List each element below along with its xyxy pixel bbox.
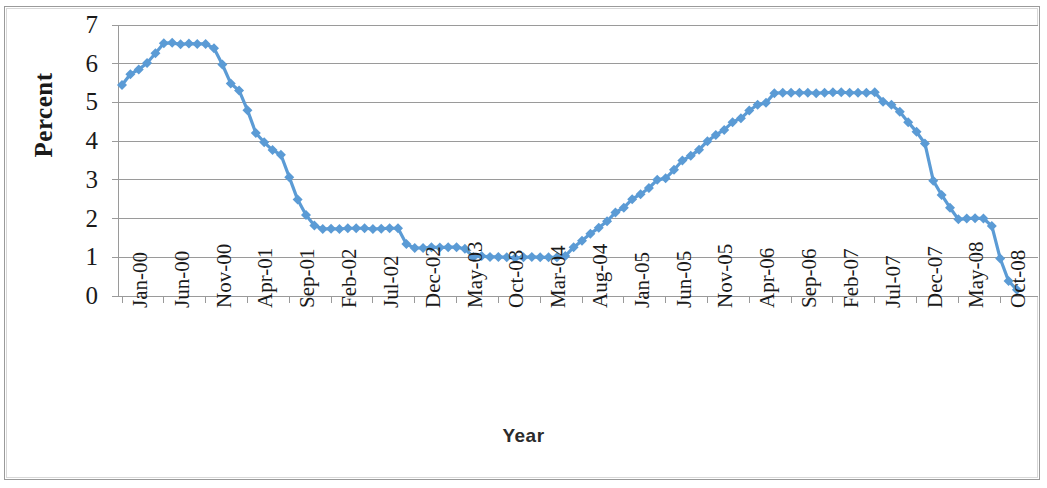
- y-axis-title: Percent: [24, 55, 64, 175]
- x-axis-tick-label: Aug-04: [590, 244, 611, 308]
- x-axis-tick-label: Jan-05: [632, 252, 653, 308]
- x-axis-tick-label: Nov-05: [715, 244, 736, 308]
- x-axis-tick-label: Mar-04: [548, 245, 569, 308]
- x-axis-tick-label: Jun-05: [674, 251, 695, 308]
- x-axis-tick-label: Jul-02: [381, 256, 402, 309]
- y-axis-tick-label: 5: [72, 89, 98, 114]
- x-axis-tick-label: Oct-03: [506, 250, 527, 308]
- x-axis-tick-label: Apr-01: [255, 248, 276, 308]
- x-axis-tick-label: Feb-02: [339, 249, 360, 309]
- y-axis-tick-label: 6: [72, 51, 98, 76]
- y-axis-tick-label: 0: [72, 283, 98, 308]
- y-axis-tick-label: 3: [72, 167, 98, 192]
- x-axis-tick-label: Oct-08: [1008, 250, 1029, 308]
- x-axis-tick-label: Jan-00: [130, 252, 151, 308]
- x-axis-tick-label: Apr-06: [757, 248, 778, 308]
- x-axis-tick-label: Sep-06: [799, 249, 820, 309]
- line-chart: Percent 01234567 Jan-00Jun-00Nov-00Apr-0…: [0, 0, 1047, 488]
- y-axis-tick-label: 4: [72, 128, 98, 153]
- x-axis-tick-label: Sep-01: [297, 249, 318, 309]
- y-axis-tickmarks: [112, 25, 118, 296]
- x-axis-title: Year: [0, 425, 1047, 447]
- x-axis-tick-label: Jun-00: [172, 251, 193, 308]
- x-axis-tick-label: Feb-07: [841, 249, 862, 309]
- y-axis-tick-label: 1: [72, 244, 98, 269]
- x-axis-tick-label: Dec-02: [423, 246, 444, 308]
- x-axis-tick-label: Dec-07: [925, 246, 946, 308]
- x-axis-tick-label: May-08: [966, 242, 987, 309]
- y-axis-tick-label: 7: [72, 12, 98, 37]
- x-axis-tick-label: Jul-07: [883, 256, 904, 309]
- chart-plot-area: [0, 0, 1047, 488]
- x-axis-tick-label: May-03: [465, 242, 486, 309]
- y-axis-tick-label: 2: [72, 206, 98, 231]
- x-axis-tick-label: Nov-00: [214, 244, 235, 308]
